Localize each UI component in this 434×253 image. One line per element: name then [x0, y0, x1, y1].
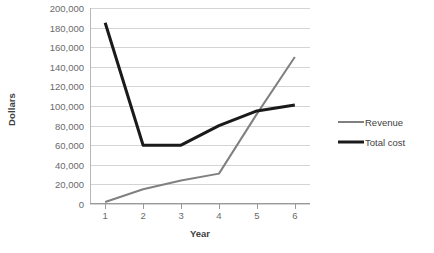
- x-axis-tick: [181, 204, 182, 209]
- x-axis-tick-label: 3: [178, 210, 183, 221]
- x-axis-tick-label: 6: [292, 210, 297, 221]
- y-axis-title-label: Dollars: [6, 93, 17, 126]
- legend-swatch-icon: [338, 117, 364, 127]
- line-chart: Dollars 020,00040,00060,00080,000100,000…: [0, 0, 434, 253]
- legend-item-total-cost[interactable]: Total cost: [338, 132, 434, 152]
- plot-area: [90, 8, 310, 204]
- x-axis-tick: [143, 204, 144, 209]
- y-axis-tick-label: 0: [79, 199, 84, 210]
- y-axis-tick-label: 200,000: [50, 3, 84, 14]
- y-axis-tick-label: 160,000: [50, 42, 84, 53]
- y-axis-tick-label: 60,000: [55, 140, 84, 151]
- y-axis-title: Dollars: [0, 0, 22, 218]
- legend-label: Total cost: [364, 137, 405, 148]
- series-line-revenue: [105, 57, 295, 202]
- series-container: [90, 8, 310, 204]
- chart-legend: RevenueTotal cost: [338, 112, 434, 152]
- x-axis-tick: [257, 204, 258, 209]
- y-axis-tick-label: 140,000: [50, 61, 84, 72]
- x-axis-tick: [219, 204, 220, 209]
- y-axis-tick-label: 40,000: [55, 159, 84, 170]
- legend-label: Revenue: [364, 117, 403, 128]
- x-axis-tick-label: 5: [254, 210, 259, 221]
- y-axis-tick-label: 180,000: [50, 22, 84, 33]
- legend-swatch-icon: [338, 137, 364, 147]
- x-axis-tick-labels: 123456: [90, 210, 310, 226]
- y-axis-tick-label: 80,000: [55, 120, 84, 131]
- y-axis-tick-label: 120,000: [50, 81, 84, 92]
- y-axis-tick-label: 20,000: [55, 179, 84, 190]
- legend-item-revenue[interactable]: Revenue: [338, 112, 434, 132]
- y-axis-tick-label: 100,000: [50, 101, 84, 112]
- x-axis-tick: [295, 204, 296, 209]
- x-axis-tick-label: 2: [140, 210, 145, 221]
- y-axis-tick-labels: 020,00040,00060,00080,000100,000120,0001…: [20, 8, 88, 204]
- series-line-total-cost: [105, 23, 295, 146]
- x-axis-tick: [105, 204, 106, 209]
- x-axis-tick-label: 4: [216, 210, 221, 221]
- x-axis-title: Year: [90, 228, 310, 239]
- x-axis-tick-label: 1: [103, 210, 108, 221]
